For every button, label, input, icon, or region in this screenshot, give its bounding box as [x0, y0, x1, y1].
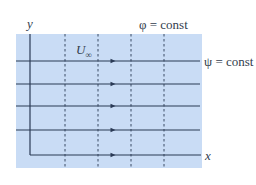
freestream-velocity-label: U∞: [76, 43, 92, 60]
potential-lines-label: φ = const: [139, 18, 188, 31]
freestream-subscript: ∞: [85, 50, 91, 60]
flow-direction-arrow-icon: [111, 59, 116, 63]
flow-direction-arrow-icon: [111, 153, 116, 157]
freestream-symbol: U: [76, 42, 85, 57]
flow-direction-arrow-icon: [111, 104, 116, 108]
streamlines-label: ψ = const: [204, 55, 253, 68]
flow-direction-arrow-icon: [111, 128, 116, 132]
flow-diagram: [0, 0, 256, 185]
y-axis-label: y: [27, 17, 33, 30]
streamlines-group: [16, 59, 201, 157]
x-axis-label: x: [205, 149, 211, 162]
flow-direction-arrow-icon: [111, 82, 116, 86]
